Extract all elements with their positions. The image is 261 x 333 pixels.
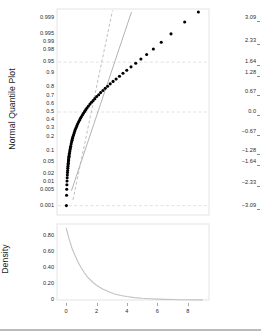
x-tickmark	[66, 303, 67, 306]
qq-prob-tick: 0.5	[22, 109, 54, 115]
qq-prob-tick: 0.1	[22, 148, 54, 154]
qq-prob-tick: 0.2	[22, 134, 54, 140]
density-panel	[57, 224, 209, 300]
density-tick: 0.40	[22, 265, 54, 271]
qq-zscore-tick: 0.0	[222, 109, 256, 115]
qq-prob-tick: 0.001	[22, 203, 54, 209]
qq-zscore-tickmark	[257, 115, 260, 116]
qq-zscore-tickmark	[257, 44, 260, 45]
density-tick: 0.20	[22, 281, 54, 287]
density-tick: 0.60	[22, 249, 54, 255]
qq-zscore-tickmark	[257, 95, 260, 96]
qq-prob-tick: 0.9	[22, 70, 54, 76]
qq-zscore-tickmark	[257, 165, 260, 166]
qq-prob-tick: 0.005	[22, 187, 54, 193]
qq-zscore-tickmark	[257, 76, 260, 77]
x-tick: 4	[117, 309, 137, 315]
qq-zscore-tickmark	[257, 21, 260, 22]
qq-prob-tick: 0.02	[22, 171, 54, 177]
x-tick: 6	[147, 309, 167, 315]
qq-prob-tick: 0.95	[22, 59, 54, 65]
qq-prob-tick: 0.98	[22, 47, 54, 53]
x-tickmark	[188, 303, 189, 306]
qq-prob-tick: 0.8	[22, 84, 54, 90]
density-panel-frame	[57, 224, 209, 300]
qq-zscore-tickmark	[257, 135, 260, 136]
qq-prob-tick: 0.3	[22, 125, 54, 131]
qq-prob-tick: 0.05	[22, 159, 54, 165]
qq-zscore-tickmark	[257, 65, 260, 66]
qq-panel	[57, 9, 209, 215]
qq-prob-tick: 0.7	[22, 93, 54, 99]
x-tick: 0	[56, 309, 76, 315]
qq-prob-tick: 0.995	[22, 31, 54, 37]
x-tickmark	[127, 303, 128, 306]
qq-zscore-tickmark	[257, 154, 260, 155]
qq-zscore-tickmark	[257, 209, 260, 210]
qq-zscore-tick: −1.64	[222, 159, 256, 165]
x-tick: 8	[178, 309, 198, 315]
qq-zscore-tick: −0.67	[222, 129, 256, 135]
x-tickmark	[157, 303, 158, 306]
qq-zscore-tick: 3.09	[222, 15, 256, 21]
qq-zscore-tick: 2.33	[222, 38, 256, 44]
qq-zscore-tickmark	[257, 186, 260, 187]
x-tickmark	[97, 303, 98, 306]
qq-zscore-tick: −1.28	[222, 148, 256, 154]
qq-prob-tick: 0.4	[22, 117, 54, 123]
qq-prob-tick: 0.01	[22, 179, 54, 185]
qq-prob-tick: 0.99	[22, 39, 54, 45]
qq-zscore-tick: 0.67	[222, 89, 256, 95]
qq-prob-tick: 0.999	[22, 15, 54, 21]
statistical-figure: Normal Quantile Plot Density 0.9990.9950…	[0, 0, 261, 333]
qq-prob-tick: 0.6	[22, 101, 54, 107]
qq-zscore-tick: 1.28	[222, 70, 256, 76]
x-tick: 2	[87, 309, 107, 315]
qq-zscore-tick: −2.33	[222, 180, 256, 186]
qq-zscore-tick: 1.64	[222, 59, 256, 65]
density-tick: 0.80	[22, 233, 54, 239]
qq-zscore-tick: −3.09	[222, 203, 256, 209]
density-tick: 0	[22, 297, 54, 303]
